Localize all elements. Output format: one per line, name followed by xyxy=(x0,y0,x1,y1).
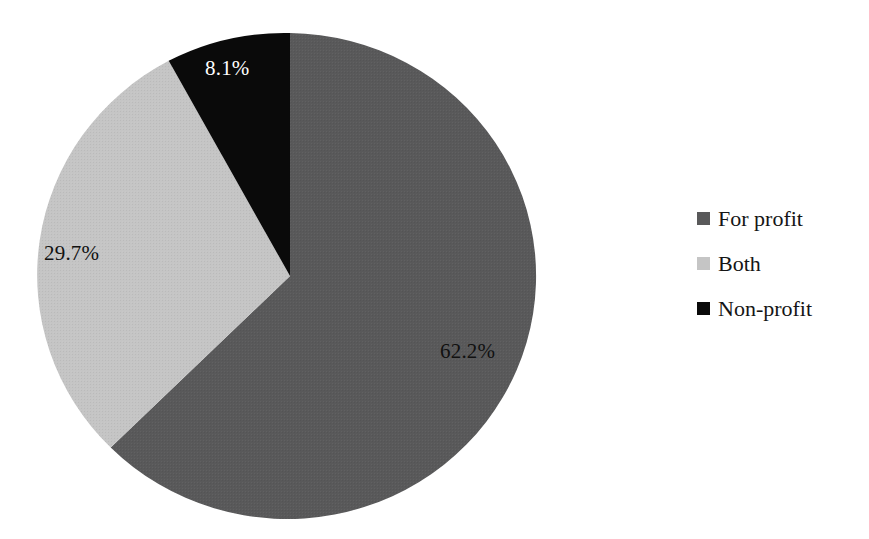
legend-label-non-profit: Non-profit xyxy=(718,298,812,320)
legend-label-both: Both xyxy=(718,253,761,275)
pie-label-non-profit: 8.1% xyxy=(205,58,250,79)
pie-label-both: 29.7% xyxy=(44,243,99,264)
legend-item-non-profit[interactable]: Non-profit xyxy=(697,286,862,331)
pie-label-for-profit: 62.2% xyxy=(440,341,495,362)
pie-svg xyxy=(0,0,600,539)
legend-swatch-icon-for-profit xyxy=(697,212,710,225)
pie-plot-area: 62.2% 29.7% 8.1% xyxy=(0,0,600,539)
legend-swatch-icon-non-profit xyxy=(697,302,710,315)
legend-item-for-profit[interactable]: For profit xyxy=(697,196,862,241)
legend-swatch-icon-both xyxy=(697,257,710,270)
legend-label-for-profit: For profit xyxy=(718,208,803,230)
pie-chart: 62.2% 29.7% 8.1% For profit Both Non-pro… xyxy=(0,0,869,539)
legend-item-both[interactable]: Both xyxy=(697,241,862,286)
chart-legend: For profit Both Non-profit xyxy=(697,196,862,331)
